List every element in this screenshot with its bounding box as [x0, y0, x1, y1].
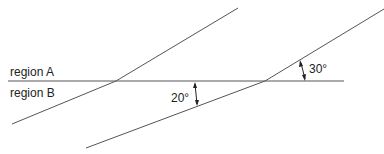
region-b-label: region B [10, 86, 55, 100]
angle-label-30: 30° [309, 62, 327, 76]
left-ray-region-a [116, 8, 238, 81]
region-a-label: region A [10, 65, 54, 79]
refraction-diagram: 20° 30° region A region B [0, 0, 384, 154]
angle-label-20: 20° [171, 91, 189, 105]
angle-arrow-30 [299, 60, 306, 81]
angle-arrow-20 [193, 82, 199, 106]
